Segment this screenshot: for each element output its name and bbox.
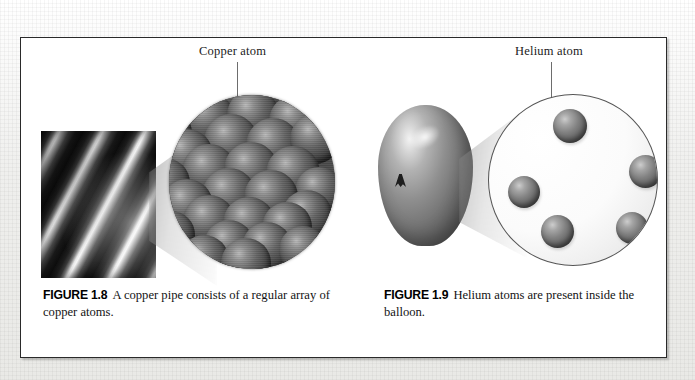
helium-atom-sphere <box>616 212 648 244</box>
copper-magnified-circle <box>169 95 335 269</box>
figure-number-helium: FIGURE 1.9 <box>384 288 448 302</box>
copper-pipe-photograph <box>41 131 156 278</box>
figure-number-copper: FIGURE 1.8 <box>43 288 107 302</box>
page-root: Copper atom <box>0 0 695 380</box>
helium-atom-sphere <box>508 176 540 208</box>
figure-panel-copper: Copper atom <box>21 38 363 357</box>
balloon-illustration <box>378 105 473 246</box>
helium-atom-sphere <box>553 109 587 143</box>
figure-caption-helium: FIGURE 1.9Helium atoms are present insid… <box>384 287 652 321</box>
figure-panel-helium: Helium atom FIGURE 1.9Helium atoms are p… <box>363 38 666 357</box>
helium-atom-sphere <box>629 155 658 188</box>
copper-atom-callout-label: Copper atom <box>199 44 266 59</box>
helium-atom-sphere <box>541 215 574 248</box>
figure-caption-copper: FIGURE 1.8A copper pipe consists of a re… <box>43 287 333 321</box>
balloon-highlight <box>407 121 443 153</box>
helium-magnified-circle <box>488 94 658 266</box>
figure-box: Copper atom <box>20 37 667 358</box>
helium-atom-callout-label: Helium atom <box>515 44 583 59</box>
